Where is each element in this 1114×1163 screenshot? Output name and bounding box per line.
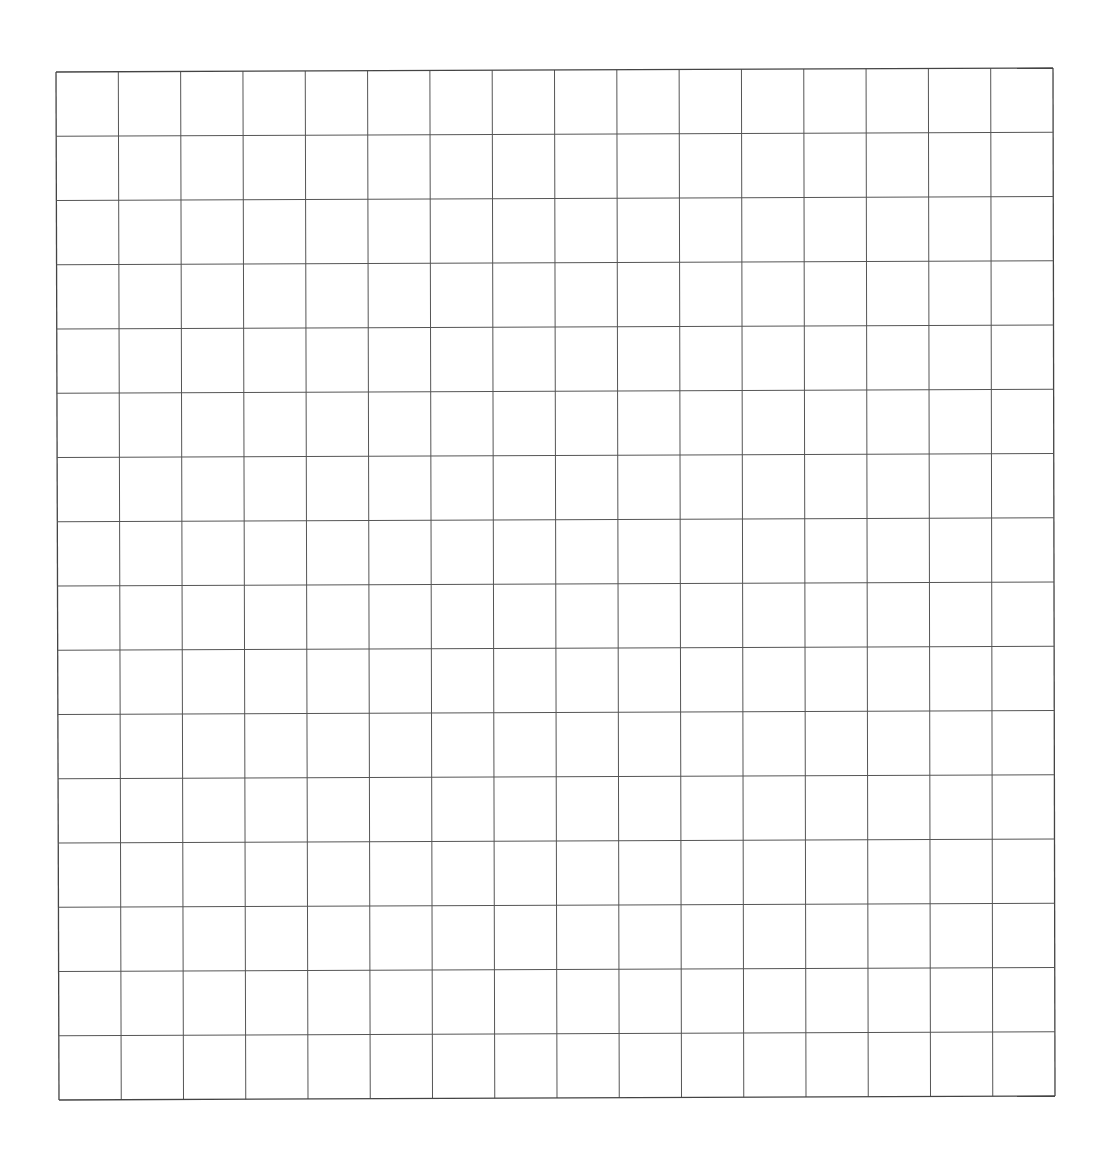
square-grid [0,0,1114,1163]
